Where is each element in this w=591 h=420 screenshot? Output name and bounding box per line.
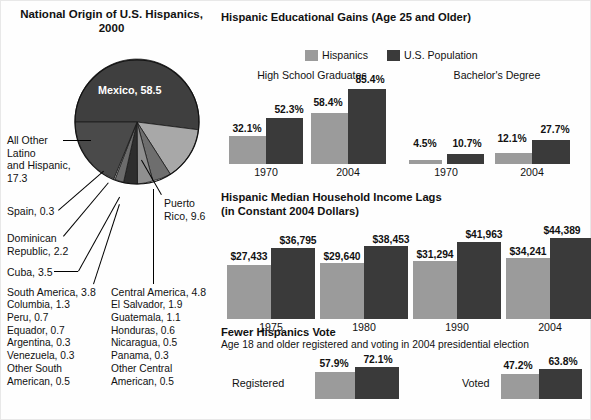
pie-label-spain: Spain, 0.3	[7, 205, 54, 218]
income-value-1980-us: $38,453	[363, 234, 419, 245]
income-value-1975-hispanics: $27,433	[221, 251, 277, 262]
income-bar-2004-us	[550, 238, 591, 319]
voting-bar-registered-us	[355, 367, 399, 399]
education-axis-label-hs-2004: 2004	[323, 166, 373, 178]
south-america-item: Other South	[7, 363, 74, 376]
income-bar-1980-hispanics	[320, 263, 364, 319]
central-america-item: Honduras, 0.6	[111, 325, 182, 338]
education-value-ba-1970-us: 10.7%	[444, 138, 490, 149]
income-value-2004-us: $44,389	[533, 225, 591, 236]
income-section-title: Hispanic Median Household Income Lags (i…	[221, 190, 442, 218]
pie-label-south-america: South America, 3.8	[7, 286, 96, 299]
right-column: Hispanic Educational Gains (Age 25 and O…	[219, 1, 591, 420]
education-bar-ba-1970-hispanics	[409, 160, 442, 164]
education-value-hs-2004-hispanics: 58.4%	[305, 97, 351, 108]
education-axis-label-ba-1970: 1970	[421, 166, 471, 178]
education-value-hs-1970-hispanics: 32.1%	[224, 123, 270, 134]
leader-line-central-america	[153, 189, 154, 284]
south-america-item: Argentina, 0.3	[7, 337, 74, 350]
education-bar-ba-1970-us	[447, 154, 484, 164]
pie-chart-panel: National Origin of U.S. Hispanics, 2000 …	[1, 1, 217, 420]
income-bar-1975-hispanics	[227, 265, 271, 319]
income-bar-1980-us	[364, 246, 408, 319]
central-america-breakdown-list: El Salvador, 1.9Guatemala, 1.1Honduras, …	[111, 299, 182, 389]
education-value-ba-2004-us: 27.7%	[532, 124, 578, 135]
leader-line-south-america	[93, 204, 120, 284]
income-value-1980-hispanics: $29,640	[314, 251, 370, 262]
income-axis-label-2004: 2004	[525, 321, 575, 333]
income-bar-2004-hispanics	[506, 258, 550, 319]
central-america-item: El Salvador, 1.9	[111, 299, 182, 312]
south-america-item: Equador, 0.7	[7, 325, 74, 338]
pie-label-cuba: Cuba, 3.5	[7, 266, 53, 279]
income-value-1990-hispanics: $31,294	[407, 249, 463, 260]
leader-line-cuba-h	[54, 271, 78, 272]
education-bar-hs-1970-hispanics	[229, 136, 266, 164]
pie-label-mexico: Mexico, 58.5	[98, 84, 162, 97]
infographic-root: National Origin of U.S. Hispanics, 2000 …	[0, 0, 591, 420]
pie-chart-title: National Origin of U.S. Hispanics, 2000	[9, 7, 214, 36]
voting-bar-registered-hispanics	[315, 372, 355, 399]
voting-value-voted-us: 63.8%	[540, 356, 586, 367]
voting-row-label-registered: Registered	[232, 377, 284, 389]
legend-label-us-population: U.S. Population	[404, 49, 478, 61]
income-bar-1990-us	[457, 242, 501, 319]
education-value-ba-1970-hispanics: 4.5%	[404, 138, 446, 149]
income-value-1990-us: $41,963	[456, 229, 512, 240]
voting-bar-voted-us	[539, 369, 582, 399]
income-axis-label-1990: 1990	[432, 321, 482, 333]
voting-section-subtitle: Age 18 and older registered and voting i…	[221, 339, 529, 351]
education-value-ba-2004-hispanics: 12.1%	[489, 133, 535, 144]
education-bar-ba-2004-hispanics	[495, 153, 532, 164]
central-america-item: Guatemala, 1.1	[111, 312, 182, 325]
national-origin-pie-chart	[71, 56, 203, 188]
voting-value-registered-us: 72.1%	[355, 354, 401, 365]
south-america-item: Columbia, 1.3	[7, 299, 74, 312]
education-axis-label-ba-2004: 2004	[507, 166, 557, 178]
legend-swatch-us-population	[387, 50, 400, 61]
leader-line-cuba	[78, 197, 120, 272]
central-america-item: American, 0.5	[111, 376, 182, 389]
voting-bar-voted-hispanics	[501, 374, 539, 399]
voting-section-title: Fewer Hispanics Vote	[221, 325, 336, 339]
education-group-header-bachelors: Bachelor's Degree	[417, 69, 577, 81]
education-bar-ba-2004-us	[532, 140, 570, 164]
leader-line-all-other	[63, 140, 91, 141]
south-america-breakdown-list: Columbia, 1.3Peru, 0.7Equador, 0.7Argent…	[7, 299, 74, 389]
income-value-2004-hispanics: $34,241	[500, 246, 556, 257]
central-america-item: Panama, 0.3	[111, 350, 182, 363]
central-america-item: Nicaragua, 0.5	[111, 337, 182, 350]
voting-value-registered-hispanics: 57.9%	[311, 358, 357, 369]
pie-label-puerto-rico: Puerto Rico, 9.6	[164, 197, 205, 222]
central-america-item: Other Central	[111, 363, 182, 376]
education-axis-label-hs-1970: 1970	[241, 166, 291, 178]
education-value-hs-2004-us: 85.4%	[347, 74, 393, 85]
education-bar-hs-2004-hispanics	[311, 113, 348, 164]
income-bar-1975-us	[271, 248, 315, 319]
south-america-item: Peru, 0.7	[7, 312, 74, 325]
income-value-1975-us: $36,795	[270, 235, 326, 246]
pie-label-dominican-republic: Dominican Republic, 2.2	[7, 232, 68, 257]
education-bar-hs-1970-us	[266, 118, 303, 164]
south-america-item: American, 0.5	[7, 376, 74, 389]
education-bar-hs-2004-us	[348, 89, 386, 164]
pie-label-central-america: Central America, 4.8	[111, 286, 206, 299]
voting-value-voted-hispanics: 47.2%	[495, 360, 541, 371]
education-section-title: Hispanic Educational Gains (Age 25 and O…	[221, 10, 471, 24]
legend-swatch-hispanics	[305, 50, 318, 61]
income-bar-1990-hispanics	[413, 261, 457, 319]
pie-label-all-other: All Other Latino and Hispanic, 17.3	[7, 134, 71, 184]
voting-row-label-voted: Voted	[462, 377, 490, 389]
legend-label-hispanics: Hispanics	[322, 49, 368, 61]
income-axis-label-1980: 1980	[339, 321, 389, 333]
south-america-item: Venezuela, 0.3	[7, 350, 74, 363]
